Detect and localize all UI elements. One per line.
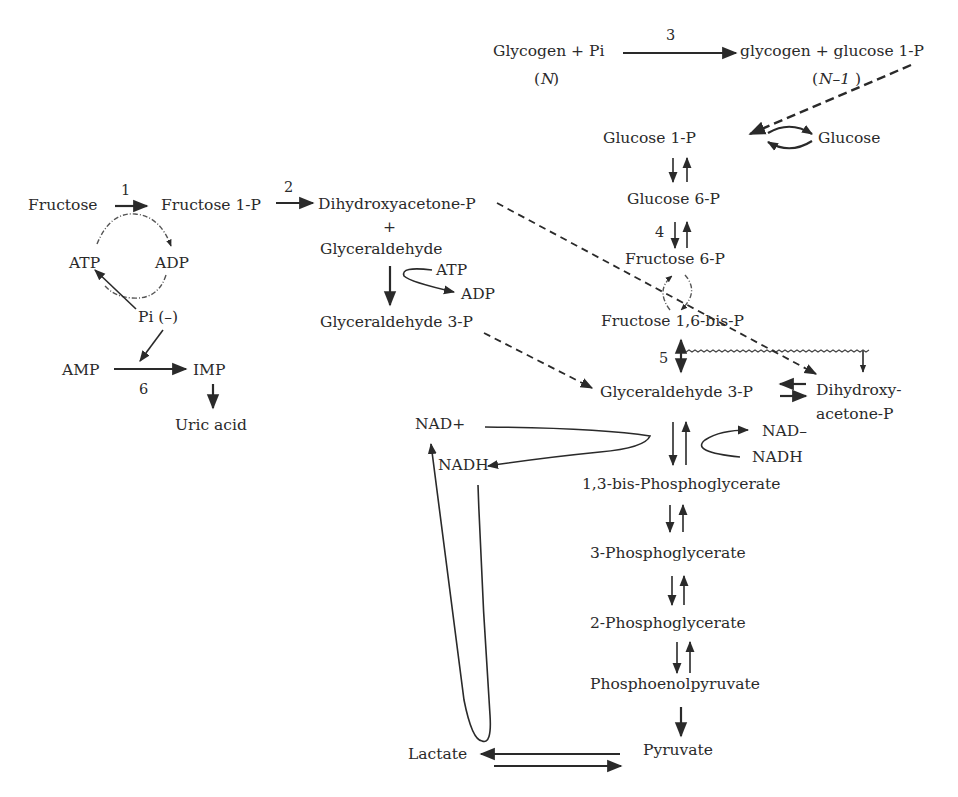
node-fructose-1p: Fructose 1-P (161, 196, 261, 214)
node-pi-minus: Pi (–) (138, 308, 178, 326)
node-nadh-right: NADH (752, 448, 803, 466)
node-glycogen-glucose1p: glycogen + glucose 1-P (740, 42, 924, 60)
arrow-atp-to-adp (97, 214, 171, 246)
node-n-minus-1-close: ) (855, 70, 861, 88)
node-glucose-6p: Glucose 6-P (627, 190, 720, 208)
node-phosphoenolpyruvate: Phosphoenolpyruvate (590, 675, 760, 693)
arrow-nadh-lactate-loop (431, 444, 490, 741)
node-glyceraldehyde-3p-left: Glyceraldehyde 3-P (320, 313, 473, 331)
node-adp-left: ADP (154, 254, 189, 272)
node-glyceraldehyde: Glyceraldehyde (320, 240, 443, 258)
node-lactate: Lactate (408, 745, 467, 763)
node-bisphosphoglycerate: 1,3-bis-Phosphoglycerate (582, 475, 780, 493)
enzyme-label-6: 6 (139, 381, 148, 397)
node-uric-acid: Uric acid (175, 416, 247, 434)
node-fructose: Fructose (28, 196, 98, 214)
pathway-diagram: Glycogen + Pi ( N ) 3 glycogen + glucose… (0, 0, 958, 797)
node-2-phosphoglycerate: 2-Phosphoglycerate (590, 614, 746, 632)
node-glycogen-n-close: ) (553, 70, 559, 88)
node-glucose: Glucose (818, 129, 880, 147)
node-atp-left: ATP (68, 254, 100, 272)
node-n-minus-1-open: ( (812, 70, 818, 88)
node-imp: IMP (193, 361, 225, 379)
enzyme-label-5: 5 (659, 350, 668, 366)
arrow-g3p-joins-glycolysis (484, 333, 592, 388)
node-dihydroxy-line2: acetone-P (816, 405, 893, 423)
arrow-f6p-to-f16bp (681, 275, 692, 310)
node-nadh-left: NADH (438, 456, 489, 474)
node-fructose-6p: Fructose 6-P (625, 250, 725, 268)
node-nad-plus: NAD+ (415, 415, 465, 433)
enzyme-label-4: 4 (655, 224, 664, 240)
node-dihydroxy-line1: Dihydroxy- (816, 381, 902, 399)
node-pyruvate: Pyruvate (643, 741, 713, 759)
arrow-glucose-to-g1p (768, 141, 812, 148)
node-nad-right: NAD– (762, 422, 807, 440)
node-3-phosphoglycerate: 3-Phosphoglycerate (590, 544, 746, 562)
node-amp: AMP (61, 361, 100, 379)
wavy-line-aldolase-split (686, 350, 869, 352)
enzyme-label-2: 2 (284, 179, 293, 195)
arrow-f16bp-to-f6p (663, 276, 672, 310)
enzyme-label-3: 3 (666, 27, 675, 43)
enzyme-label-1: 1 (121, 182, 130, 198)
node-fructose-16bisp: Fructose 1,6-bis-P (601, 312, 744, 330)
pathway-svg: Glycogen + Pi ( N ) 3 glycogen + glucose… (0, 0, 958, 797)
arrow-pi-inhibits (140, 330, 163, 361)
node-glycogen-pi: Glycogen + Pi (493, 42, 604, 60)
arrow-pi-to-atp (95, 270, 136, 309)
node-glycogen-n-open: ( (534, 70, 540, 88)
node-dihydroxyacetone-p: Dihydroxyacetone-P (318, 195, 476, 213)
arrow-nadh-to-nad (702, 430, 748, 457)
arrow-g1p-to-glucose (768, 127, 812, 134)
node-plus: + (383, 218, 396, 236)
node-adp-glyc: ADP (460, 285, 495, 303)
node-glyceraldehyde-3p: Glyceraldehyde 3-P (600, 383, 753, 401)
node-glucose-1p: Glucose 1-P (603, 129, 696, 147)
node-n-minus-1: N–1 (818, 70, 850, 88)
arrow-nad-to-nadh-loop (485, 427, 650, 466)
node-atp-glyc: ATP (435, 261, 467, 279)
arrow-adp-regeneration (105, 275, 166, 298)
